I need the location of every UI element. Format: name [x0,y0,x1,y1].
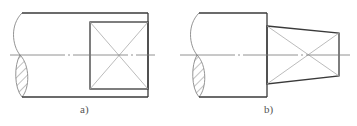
break-line-top [14,13,23,55]
panel-b-drawing [180,13,350,97]
panel-b-label: b) [264,103,273,115]
break-section-hatch [193,55,205,97]
taper-diagonal [267,33,339,84]
break-section-hatch [16,55,28,97]
technical-drawing [0,0,357,126]
panel-a-drawing [10,13,155,97]
taper-diagonal [267,26,339,76]
panel-a-label: a) [80,103,89,115]
break-line-top [191,13,200,55]
